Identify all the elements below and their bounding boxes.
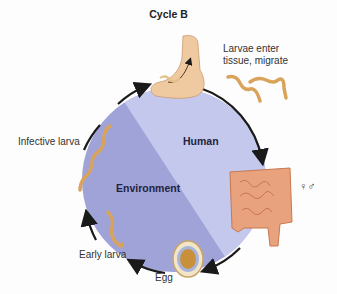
stage-label-infective-larva: Infective larva bbox=[18, 136, 80, 148]
stage-label-early-larva: Early larva bbox=[79, 249, 126, 261]
stage-label-adults: ♀♂ bbox=[299, 180, 316, 192]
region-label-environment: Environment bbox=[116, 182, 180, 194]
egg-icon bbox=[173, 241, 203, 277]
region-label-human: Human bbox=[183, 135, 219, 147]
foot-icon bbox=[151, 35, 204, 98]
label-line: Larvae enter bbox=[223, 43, 288, 55]
label-line: tissue, migrate bbox=[223, 55, 288, 67]
larvae-worms-icon bbox=[228, 77, 286, 101]
stage-label-larvae-enter: Larvae enter tissue, migrate bbox=[223, 43, 288, 67]
stage-label-egg: Egg bbox=[155, 272, 173, 284]
